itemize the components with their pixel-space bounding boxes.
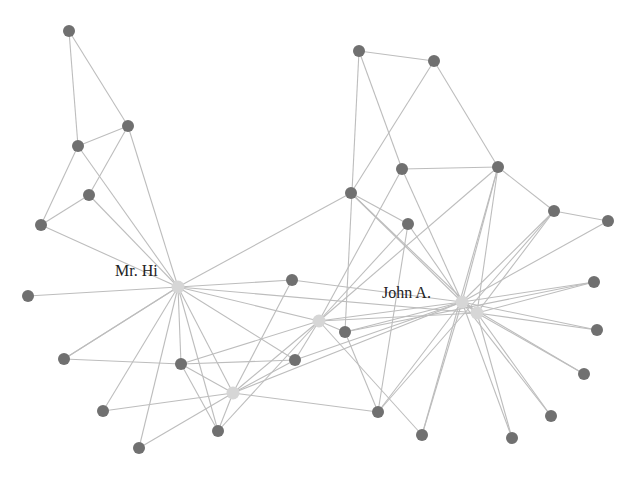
edge-JA2-AE [477, 313, 512, 438]
edge-A-B [69, 31, 128, 126]
edge-K-Q [233, 393, 378, 412]
node-ja2 [471, 307, 484, 320]
node-d [83, 189, 95, 201]
edge-T-W [434, 61, 498, 167]
edge-U-X [351, 193, 408, 224]
node-c [72, 140, 84, 152]
edge-F-MrHi [28, 287, 178, 296]
edge-Y-JohnA [462, 211, 554, 302]
node-ac [578, 368, 590, 380]
edge-T-U [351, 61, 434, 193]
node-n [133, 442, 145, 454]
edge-H-I [64, 359, 181, 364]
node-o [313, 315, 326, 328]
node-l [97, 405, 109, 417]
node-ad [545, 410, 557, 422]
edge-MrHi-G [178, 280, 292, 287]
edge-J-JohnA [295, 302, 462, 360]
edge-O-JohnA [319, 302, 462, 321]
node-u [345, 187, 357, 199]
edge-MrHi-U [178, 193, 351, 287]
edge-S-V [359, 51, 402, 169]
edge-MrHi-I [178, 287, 181, 364]
label-mr-hi: Mr. Hi [115, 262, 158, 279]
node-ab [591, 324, 603, 336]
edge-V-W [402, 167, 498, 169]
node-r [416, 429, 428, 441]
edge-K-O [233, 321, 319, 393]
edge-J-K [233, 360, 295, 393]
node-x [402, 218, 414, 230]
node-m [212, 425, 224, 437]
edge-MrHi-N [139, 287, 178, 448]
edge-C-B [78, 126, 128, 146]
node-k [227, 387, 240, 400]
node-q [372, 406, 384, 418]
edge-Y-Z [554, 211, 608, 221]
edge-A-C [69, 31, 78, 146]
node-i [175, 358, 187, 370]
node-w [492, 161, 504, 173]
edge-W-JA2 [477, 167, 498, 313]
node-j [289, 354, 301, 366]
edge-JohnA-AE [462, 302, 512, 438]
edge-S-T [359, 51, 434, 61]
edge-W-Y [498, 167, 554, 211]
node-a [63, 25, 75, 37]
edge-M-O [218, 321, 319, 431]
node-z [602, 215, 614, 227]
network-graph: Mr. Hi John A. [0, 0, 635, 478]
node-b [122, 120, 134, 132]
edge-K-L [103, 393, 233, 411]
node-s [353, 45, 365, 57]
edge-G-K [233, 280, 292, 393]
node-g [286, 274, 298, 286]
edge-MrHi-O [178, 287, 319, 321]
node-f [22, 290, 34, 302]
edge-MrHi-L [103, 287, 178, 411]
node-ae [506, 432, 518, 444]
node-e [35, 219, 47, 231]
label-john-a: John A. [382, 284, 431, 301]
node-aa [588, 276, 600, 288]
edges-layer [28, 31, 608, 448]
node-mrhi [172, 281, 185, 294]
edge-H-MrHi [64, 287, 178, 359]
node-v [396, 163, 408, 175]
edge-JA2-AC [477, 313, 584, 374]
node-p [339, 326, 351, 338]
edge-B-D [89, 126, 128, 195]
edge-K-N [139, 393, 233, 448]
edge-P-Q [345, 332, 378, 412]
edge-JA2-AD [477, 313, 551, 416]
node-y [548, 205, 560, 217]
node-h [58, 353, 70, 365]
node-t [428, 55, 440, 67]
edge-V-JohnA [402, 169, 462, 302]
node-johna [456, 296, 469, 309]
